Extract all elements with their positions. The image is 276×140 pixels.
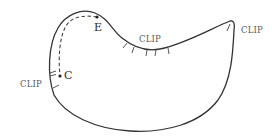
clip-right-ticks xyxy=(227,24,230,31)
point-e-dot xyxy=(95,15,98,18)
clip-left-label: CLIP xyxy=(20,79,42,89)
dashed-path-e-to-c xyxy=(59,16,97,76)
clip-middle-label: CLIP xyxy=(139,34,161,44)
shape-diagram: E C CLIP CLIP CLIP xyxy=(0,0,276,140)
shape-outline xyxy=(49,11,234,131)
clip-right-label: CLIP xyxy=(241,25,263,35)
point-c-label: C xyxy=(64,69,72,82)
point-e-label: E xyxy=(94,21,102,34)
point-c-dot xyxy=(58,74,61,77)
